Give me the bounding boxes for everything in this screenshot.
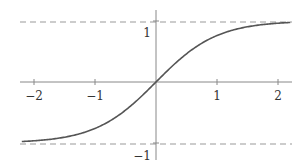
x-tick-label: −2 bbox=[25, 89, 43, 103]
y-tick-label: 1 bbox=[143, 26, 151, 40]
chart-canvas: −2 −1 1 2 1 −1 bbox=[0, 0, 304, 164]
x-tick-label: 2 bbox=[274, 89, 282, 103]
x-tick-label: 1 bbox=[213, 89, 221, 103]
y-tick-label: −1 bbox=[133, 149, 151, 163]
x-tick-label: −1 bbox=[86, 89, 104, 103]
